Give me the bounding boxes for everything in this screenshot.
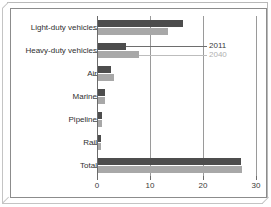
category-label-heavy-duty-vehicles: Heavy-duty vehicles <box>11 45 97 56</box>
x-tick-mark-10 <box>150 176 151 180</box>
x-tick-label-30: 30 <box>244 181 268 191</box>
category-tick-air <box>93 75 97 76</box>
bar-2011-light-duty-vehicles <box>98 20 183 27</box>
x-tick-mark-30 <box>256 176 257 180</box>
plot-area: 0 10 20 30 Light-duty vehicles Heavy-dut… <box>0 0 271 207</box>
category-row-pipeline: Pipeline <box>0 110 97 132</box>
bar-2040-heavy-duty-vehicles <box>98 51 139 58</box>
category-tick-total <box>93 167 97 168</box>
bar-2011-air <box>98 66 111 73</box>
category-row-air: Air <box>0 64 97 86</box>
gridline-30 <box>256 16 257 176</box>
category-label-light-duty-vehicles: Light-duty vehicles <box>11 22 97 33</box>
bar-2040-pipeline <box>98 120 102 127</box>
bar-2040-total <box>98 166 242 173</box>
y-axis-line <box>97 16 98 176</box>
bar-2011-heavy-duty-vehicles <box>98 43 126 50</box>
category-tick-pipeline <box>93 121 97 122</box>
category-label-marine: Marine <box>11 91 97 102</box>
gridline-20 <box>203 16 204 176</box>
category-row-heavy-duty-vehicles: Heavy-duty vehicles <box>0 41 97 63</box>
category-tick-light-duty-vehicles <box>93 29 97 30</box>
bar-2040-light-duty-vehicles <box>98 28 168 35</box>
category-row-rail: Rail <box>0 133 97 155</box>
x-tick-label-10: 10 <box>138 181 162 191</box>
bar-2040-marine <box>98 97 105 104</box>
bar-2011-rail <box>98 135 101 142</box>
category-label-total: Total <box>11 160 97 171</box>
x-tick-label-0: 0 <box>85 181 109 191</box>
category-row-marine: Marine <box>0 87 97 109</box>
category-tick-marine <box>93 98 97 99</box>
category-label-pipeline: Pipeline <box>11 114 97 125</box>
chart-figure: 0 10 20 30 Light-duty vehicles Heavy-dut… <box>0 0 271 207</box>
legend-leader-line-2011 <box>126 46 207 47</box>
bar-2040-air <box>98 74 114 81</box>
category-row-light-duty-vehicles: Light-duty vehicles <box>0 18 97 40</box>
legend-leader-line-2040 <box>139 55 207 56</box>
category-label-air: Air <box>11 68 97 79</box>
x-tick-label-20: 20 <box>191 181 215 191</box>
x-tick-mark-0 <box>97 176 98 180</box>
x-tick-mark-20 <box>203 176 204 180</box>
category-label-rail: Rail <box>11 137 97 148</box>
legend-label-2040: 2040 <box>209 50 227 60</box>
category-row-total: Total <box>0 156 97 178</box>
bar-2011-pipeline <box>98 112 102 119</box>
bar-2011-marine <box>98 89 105 96</box>
category-tick-heavy-duty-vehicles <box>93 52 97 53</box>
gridline-10 <box>150 16 151 176</box>
bar-2011-total <box>98 158 241 165</box>
category-tick-rail <box>93 144 97 145</box>
bar-2040-rail <box>98 143 101 150</box>
